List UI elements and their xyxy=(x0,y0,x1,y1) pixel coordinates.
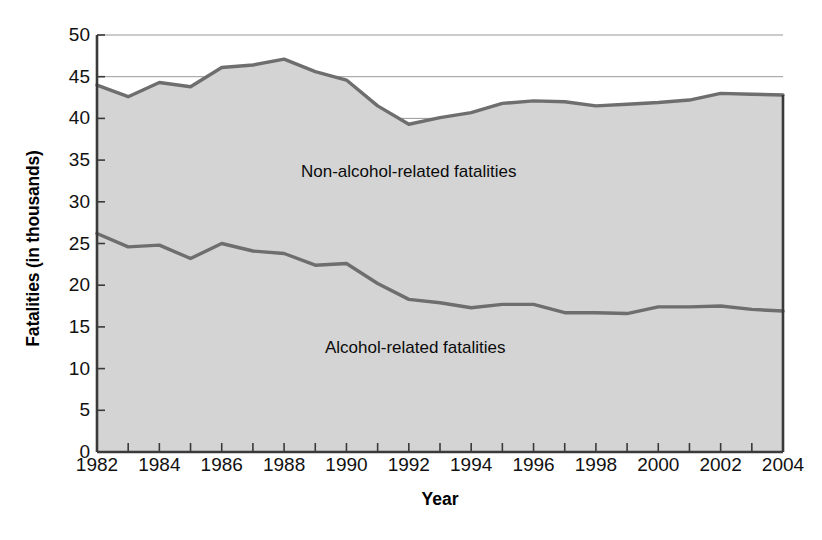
x-tick-label: 1996 xyxy=(499,455,569,474)
y-tick-label: 45 xyxy=(44,67,90,86)
series-label-alcohol-related: Alcohol-related fatalities xyxy=(325,338,505,358)
x-tick-label: 2000 xyxy=(623,455,693,474)
x-tick-label: 2004 xyxy=(748,455,818,474)
x-axis-title: Year xyxy=(97,489,783,510)
x-tick-label: 1992 xyxy=(374,455,444,474)
x-tick-label: 1998 xyxy=(561,455,631,474)
y-tick-label: 20 xyxy=(44,275,90,294)
fatalities-area-chart: Fatalities (in thousands) 05101520253035… xyxy=(0,0,822,540)
y-tick-label: 10 xyxy=(44,359,90,378)
x-tick-label: 1982 xyxy=(62,455,132,474)
x-tick-label: 1990 xyxy=(311,455,381,474)
x-tick-label: 1994 xyxy=(436,455,506,474)
y-tick-label: 35 xyxy=(44,150,90,169)
y-tick-label: 25 xyxy=(44,234,90,253)
x-tick-label: 2002 xyxy=(686,455,756,474)
x-axis-tick-labels: 1982198419861988199019921994199619982000… xyxy=(0,455,822,485)
y-tick-label: 50 xyxy=(44,25,90,44)
y-tick-label: 15 xyxy=(44,317,90,336)
y-tick-label: 5 xyxy=(44,400,90,419)
x-tick-label: 1988 xyxy=(249,455,319,474)
x-tick-label: 1986 xyxy=(187,455,257,474)
series-label-non-alcohol-related: Non-alcohol-related fatalities xyxy=(301,162,516,182)
y-tick-label: 40 xyxy=(44,108,90,127)
y-tick-label: 30 xyxy=(44,192,90,211)
x-tick-label: 1984 xyxy=(124,455,194,474)
